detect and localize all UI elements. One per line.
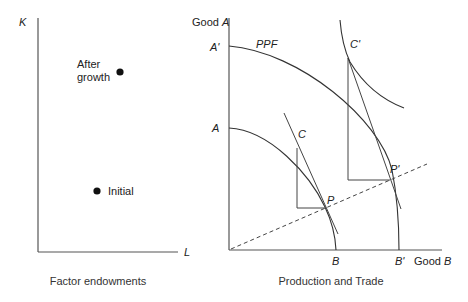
diagram-canvas: K L After growth Initial Factor endowmen…	[0, 0, 468, 302]
ppf-label: PPF	[256, 38, 279, 50]
good-b-axis-label: Good B	[414, 255, 451, 267]
b-label: B	[332, 255, 339, 267]
initial-label: Initial	[108, 185, 134, 197]
initial-dot	[93, 187, 100, 194]
l-axis-label: L	[184, 246, 190, 258]
ppf-outer-curve	[229, 46, 399, 250]
b-prime-axis-label: B'	[395, 255, 405, 267]
c-prime-label: C'	[350, 38, 361, 50]
after-growth-label-line2: growth	[77, 71, 110, 83]
after-growth-label-line1: After	[77, 58, 101, 70]
initial-price-line	[284, 113, 338, 234]
c-label: C	[298, 128, 306, 140]
after-growth-dot	[116, 68, 123, 75]
a-label: A	[211, 122, 219, 134]
ppf-inner-curve	[229, 128, 336, 250]
factor-endowments-panel: K L After growth Initial Factor endowmen…	[19, 16, 190, 287]
good-a-axis-label: Good A	[192, 16, 229, 28]
production-trade-panel: Good A Good B A' A B B' PPF C P C' P' Pr…	[192, 16, 451, 287]
k-axis-label: K	[19, 16, 27, 28]
p-prime-label: P'	[390, 163, 400, 175]
p-label: P	[327, 194, 335, 206]
factor-endowments-caption: Factor endowments	[50, 275, 147, 287]
production-trade-caption: Production and Trade	[278, 275, 383, 287]
a-prime-label: A'	[209, 41, 220, 53]
